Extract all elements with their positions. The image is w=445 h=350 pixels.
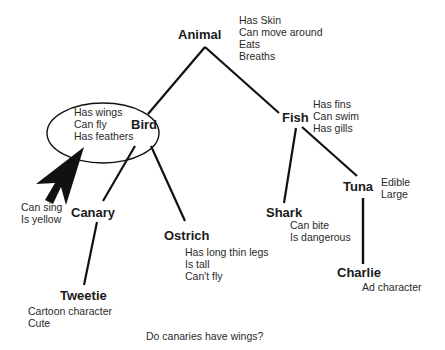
- property: Cute: [28, 317, 112, 329]
- props-fish: Has fins Can swim Has gills: [313, 98, 359, 134]
- property: Has Skin: [239, 14, 322, 26]
- property: Can sing: [21, 201, 62, 213]
- property: Has wings: [74, 106, 134, 118]
- property: Has feathers: [74, 130, 134, 142]
- property: Breaths: [239, 50, 322, 62]
- property: Ad character: [362, 281, 422, 293]
- arrow-icon: [36, 147, 84, 205]
- property: Can move around: [239, 26, 322, 38]
- props-shark: Can bite Is dangerous: [290, 219, 351, 243]
- property: Cartoon character: [28, 305, 112, 317]
- edge-fish-tuna: [302, 127, 357, 176]
- property: Eats: [239, 38, 322, 50]
- property: Has gills: [313, 122, 359, 134]
- edge-bird-canary: [103, 146, 135, 201]
- property: Can fly: [74, 118, 134, 130]
- props-tweetie: Cartoon character Cute: [28, 305, 112, 329]
- props-bird: Has wings Can fly Has feathers: [74, 106, 134, 142]
- props-canary: Can sing Is yellow: [21, 201, 62, 225]
- property: Has fins: [313, 98, 359, 110]
- property: Can bite: [290, 219, 351, 231]
- property: Is tall: [185, 258, 268, 270]
- property: Can't fly: [185, 270, 268, 282]
- props-animal: Has Skin Can move around Eats Breaths: [239, 14, 322, 62]
- edge-bird-ostrich: [151, 146, 185, 221]
- props-ostrich: Has long thin legs Is tall Can't fly: [185, 246, 268, 282]
- property: Is yellow: [21, 213, 62, 225]
- node-fish: Fish: [282, 110, 309, 125]
- edge-animal-bird: [148, 47, 205, 114]
- node-charlie: Charlie: [337, 265, 381, 280]
- question-caption: Do canaries have wings?: [146, 330, 263, 342]
- property: Large: [381, 188, 410, 200]
- semantic-network-diagram: Animal Has Skin Can move around Eats Bre…: [0, 0, 445, 350]
- node-tuna: Tuna: [343, 179, 373, 194]
- node-bird: Bird: [131, 117, 157, 132]
- node-animal: Animal: [178, 27, 221, 42]
- props-charlie: Ad character: [362, 281, 422, 293]
- props-tuna: Edible Large: [381, 176, 410, 200]
- property: Has long thin legs: [185, 246, 268, 258]
- property: Can swim: [313, 110, 359, 122]
- node-tweetie: Tweetie: [60, 288, 107, 303]
- node-shark: Shark: [266, 205, 302, 220]
- edge-fish-shark: [284, 128, 296, 203]
- property: Is dangerous: [290, 231, 351, 243]
- node-ostrich: Ostrich: [164, 228, 210, 243]
- edge-canary-tweetie: [84, 222, 97, 285]
- property: Edible: [381, 176, 410, 188]
- node-canary: Canary: [71, 205, 115, 220]
